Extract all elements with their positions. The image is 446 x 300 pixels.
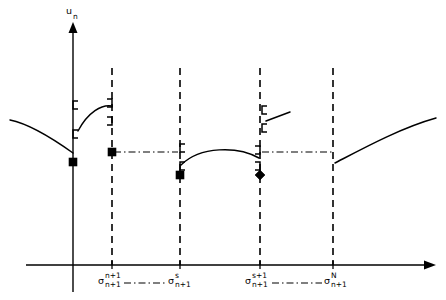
xlabel-3-base: σ bbox=[245, 275, 251, 286]
branch-1-arc bbox=[78, 106, 112, 131]
curve-branches bbox=[10, 106, 436, 165]
y-axis-label-subscript: n bbox=[73, 12, 78, 21]
marker-sigma-n-plus-1 bbox=[108, 148, 116, 156]
bracket-yaxis-upper bbox=[73, 101, 78, 109]
point-markers bbox=[69, 148, 265, 180]
bracket-sigma-s-upper bbox=[180, 144, 185, 152]
xlabel-1-subscript: n+1 bbox=[105, 280, 121, 289]
vertical-dashed-lines bbox=[112, 68, 333, 265]
branch-left-outer bbox=[10, 120, 73, 153]
bracket-sigma-s1-lower bbox=[255, 162, 260, 170]
x-axis-labels: σ n+1 n+1 σ s n+1 σ s+1 n+1 σ N n+1 bbox=[98, 271, 347, 289]
xlabel-2-base: σ bbox=[168, 275, 174, 286]
xlabel-sigma-s-plus-1: σ s+1 n+1 bbox=[245, 271, 268, 289]
xlabel-3-subscript: n+1 bbox=[252, 280, 268, 289]
xlabel-4-base: σ bbox=[324, 275, 330, 286]
y-axis-arrowhead-icon bbox=[69, 22, 78, 33]
branch-2-arc bbox=[181, 150, 259, 165]
xlabel-4-superscript: N bbox=[331, 271, 337, 280]
bracket-seg3-lower bbox=[262, 124, 267, 132]
xlabel-4-subscript: n+1 bbox=[331, 280, 347, 289]
xlabel-sigma-n-plus-1: σ n+1 n+1 bbox=[98, 271, 121, 289]
x-axis-arrowhead-icon bbox=[424, 261, 436, 270]
xlabel-sigma-s: σ s n+1 bbox=[168, 271, 191, 289]
marker-yaxis bbox=[69, 158, 77, 166]
bracket-sigma-s1-upper bbox=[255, 146, 260, 154]
marker-sigma-s-plus-1 bbox=[255, 170, 265, 180]
bracket-yaxis-lower bbox=[73, 130, 78, 138]
bracket-delimiters bbox=[73, 99, 267, 170]
xlabel-sigma-N: σ N n+1 bbox=[324, 271, 347, 289]
y-axis-label-base: u bbox=[66, 5, 72, 16]
branch-3-segment bbox=[266, 112, 290, 121]
bracket-seg3-upper bbox=[262, 106, 267, 114]
branch-right-outer bbox=[335, 118, 436, 163]
marker-sigma-s bbox=[176, 171, 184, 179]
x-axis bbox=[26, 261, 436, 270]
figure-canvas: u n bbox=[0, 0, 446, 300]
xlabel-1-base: σ bbox=[98, 275, 104, 286]
xlabel-3-superscript: s+1 bbox=[252, 271, 267, 280]
bracket-sigma-n1-lower bbox=[107, 117, 112, 125]
xlabel-1-superscript: n+1 bbox=[105, 271, 121, 280]
xlabel-2-superscript: s bbox=[175, 271, 179, 280]
xlabel-2-subscript: n+1 bbox=[175, 280, 191, 289]
